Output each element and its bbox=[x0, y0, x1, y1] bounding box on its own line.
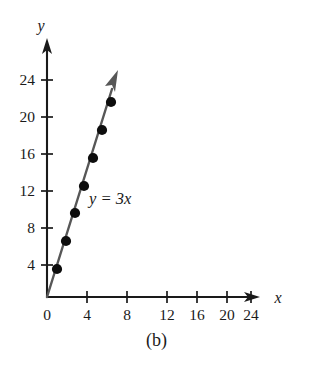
y-tick-label-20: 20 bbox=[20, 108, 36, 125]
data-point-marker bbox=[79, 181, 89, 191]
data-point-marker bbox=[97, 125, 107, 135]
y-axis-group bbox=[42, 38, 52, 297]
x-axis-group bbox=[47, 292, 260, 302]
x-tick-labels: 0 4 8 12 16 20 24 bbox=[43, 306, 259, 323]
figure-caption: (b) bbox=[0, 330, 313, 351]
x-tick-label-24: 24 bbox=[243, 306, 259, 323]
data-series-y-equals-3x bbox=[47, 70, 118, 297]
y-tick-label-24: 24 bbox=[20, 71, 36, 88]
y-tick-label-4: 4 bbox=[27, 256, 35, 273]
equation-annotation: y = 3x bbox=[87, 189, 132, 208]
x-axis-label: x bbox=[273, 289, 281, 306]
data-point-marker bbox=[88, 153, 98, 163]
x-tick-label-16: 16 bbox=[189, 306, 205, 323]
x-tick-label-8: 8 bbox=[123, 306, 131, 323]
y-tick-label-8: 8 bbox=[27, 219, 35, 236]
x-tick-label-4: 4 bbox=[83, 306, 91, 323]
coordinate-plot: 0 4 8 12 16 20 24 4 8 12 16 20 24 y x bbox=[0, 0, 313, 369]
y-tick-label-12: 12 bbox=[20, 182, 36, 199]
figure-container: 0 4 8 12 16 20 24 4 8 12 16 20 24 y x bbox=[0, 0, 313, 369]
data-point-marker bbox=[70, 208, 80, 218]
data-point-marker bbox=[106, 97, 116, 107]
y-axis-label: y bbox=[35, 17, 45, 35]
data-point-marker bbox=[52, 264, 62, 274]
y-tick-labels: 4 8 12 16 20 24 bbox=[20, 71, 36, 273]
data-point-marker bbox=[61, 236, 71, 246]
x-tick-label-0: 0 bbox=[43, 306, 51, 323]
x-tick-label-12: 12 bbox=[159, 306, 175, 323]
y-tick-label-16: 16 bbox=[20, 145, 36, 162]
x-tick-label-20: 20 bbox=[219, 306, 235, 323]
